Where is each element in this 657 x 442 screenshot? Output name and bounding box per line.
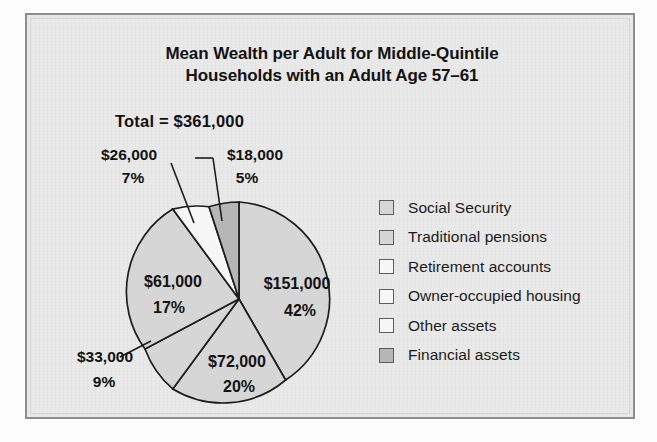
legend-swatch-financial-assets xyxy=(379,348,394,363)
legend-item-retirement-accounts[interactable]: Retirement accounts xyxy=(379,252,629,282)
legend-swatch-traditional-pensions xyxy=(379,230,394,245)
legend-item-other-assets[interactable]: Other assets xyxy=(379,311,629,341)
slice-label-social-security-value: $151,000 xyxy=(264,275,331,292)
callout-label-retirement-accounts-percent: 9% xyxy=(93,373,116,390)
legend-label-other-assets: Other assets xyxy=(408,317,496,335)
chart-title-line-2: Households with an Adult Age 57–61 xyxy=(27,65,637,87)
legend-label-traditional-pensions: Traditional pensions xyxy=(408,228,547,246)
slice-label-traditional-pensions-percent: 20% xyxy=(223,378,255,395)
chart-legend: Social Security Traditional pensions Ret… xyxy=(379,193,629,370)
figure-screenshot: Mean Wealth per Adult for Middle-Quintil… xyxy=(0,0,657,442)
slice-label-owner-occupied-housing-percent: 17% xyxy=(153,299,185,316)
legend-item-owner-occupied-housing[interactable]: Owner-occupied housing xyxy=(379,282,629,312)
callout-label-other-assets-percent: 7% xyxy=(122,169,145,186)
callout-label-other-assets-value: $26,000 xyxy=(101,146,157,163)
legend-swatch-other-assets xyxy=(379,318,394,333)
total-label: Total = $361,000 xyxy=(115,112,244,131)
slice-label-traditional-pensions-value: $72,000 xyxy=(208,353,266,370)
legend-label-retirement-accounts: Retirement accounts xyxy=(408,258,551,276)
chart-title: Mean Wealth per Adult for Middle-Quintil… xyxy=(27,43,637,87)
legend-swatch-social-security xyxy=(379,200,394,215)
legend-item-social-security[interactable]: Social Security xyxy=(379,193,629,223)
legend-swatch-retirement-accounts xyxy=(379,259,394,274)
pie-chart: $151,000 42% $72,000 20% $61,000 17% $26… xyxy=(67,135,387,415)
callout-label-financial-assets-value: $18,000 xyxy=(227,146,283,163)
slice-label-owner-occupied-housing-value: $61,000 xyxy=(144,273,202,290)
slice-label-social-security-percent: 42% xyxy=(284,302,316,319)
pie-chart-svg: $151,000 42% $72,000 20% $61,000 17% $26… xyxy=(67,135,387,415)
callout-label-retirement-accounts-value: $33,000 xyxy=(77,348,133,365)
legend-label-owner-occupied-housing: Owner-occupied housing xyxy=(408,287,581,305)
chart-title-line-1: Mean Wealth per Adult for Middle-Quintil… xyxy=(165,44,498,63)
legend-label-social-security: Social Security xyxy=(408,199,511,217)
figure-frame: Mean Wealth per Adult for Middle-Quintil… xyxy=(25,13,635,419)
legend-swatch-owner-occupied-housing xyxy=(379,289,394,304)
legend-item-traditional-pensions[interactable]: Traditional pensions xyxy=(379,223,629,253)
callout-label-financial-assets-percent: 5% xyxy=(236,169,259,186)
legend-label-financial-assets: Financial assets xyxy=(408,346,520,364)
legend-item-financial-assets[interactable]: Financial assets xyxy=(379,341,629,371)
